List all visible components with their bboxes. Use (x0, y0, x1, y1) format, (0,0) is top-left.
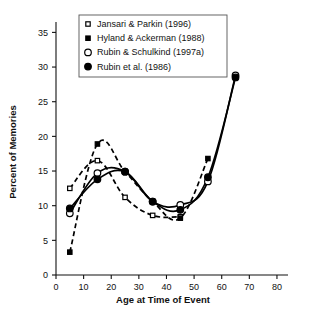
legend-marker-filled-circle (85, 63, 92, 70)
x-tick-label: 30 (134, 282, 144, 292)
data-point (68, 186, 72, 190)
x-tick-label: 10 (79, 282, 89, 292)
data-point (178, 216, 182, 220)
data-point (123, 195, 127, 199)
y-tick-label: 0 (43, 270, 48, 280)
series-line (70, 140, 208, 252)
x-tick-label: 40 (161, 282, 171, 292)
chart-legend: Jansari & Parkin (1996)Hyland & Ackerman… (79, 15, 227, 77)
x-tick-label: 60 (217, 282, 227, 292)
series-3-markers (67, 74, 239, 213)
y-axis-ticks: 05101520253035 (38, 28, 56, 281)
legend-label: Hyland & Ackerman (1988) (97, 33, 205, 43)
x-tick-label: 80 (272, 282, 282, 292)
y-tick-label: 5 (43, 236, 48, 246)
y-tick-label: 20 (38, 132, 48, 142)
y-tick-label: 30 (38, 62, 48, 72)
series-1-markers (68, 142, 210, 255)
legend-marker-filled-square (86, 36, 90, 40)
data-point (205, 174, 212, 181)
data-point (150, 213, 154, 217)
y-tick-label: 15 (38, 166, 48, 176)
legend-label: Rubin & Schulkind (1997a) (97, 47, 204, 57)
data-point (94, 176, 101, 183)
x-axis-ticks: 01020304050607080 (53, 275, 281, 292)
data-point (122, 168, 129, 175)
legend-label: Rubin et al. (1986) (97, 62, 171, 72)
data-point (95, 142, 99, 146)
y-tick-label: 35 (38, 28, 48, 38)
data-point (67, 205, 74, 212)
data-point (95, 158, 99, 162)
y-tick-label: 25 (38, 97, 48, 107)
data-point (177, 207, 184, 214)
legend-marker-open-square (86, 22, 90, 26)
y-tick-label: 10 (38, 201, 48, 211)
series-1 (70, 140, 208, 252)
series-2-markers (67, 72, 239, 217)
data-point (68, 250, 72, 254)
data-point (206, 156, 210, 160)
memory-distribution-chart: 05101520253035 01020304050607080 Percent… (0, 0, 310, 319)
data-point (94, 170, 101, 177)
data-point (232, 74, 239, 81)
x-tick-label: 50 (189, 282, 199, 292)
chart-figure: 05101520253035 01020304050607080 Percent… (0, 0, 310, 319)
x-tick-label: 0 (53, 282, 58, 292)
data-point (149, 198, 156, 205)
x-tick-label: 70 (244, 282, 254, 292)
data-series-group (67, 72, 239, 254)
legend-marker-open-circle (85, 49, 92, 56)
x-tick-label: 20 (106, 282, 116, 292)
y-axis-title: Percent of Memories (7, 105, 18, 198)
legend-label: Jansari & Parkin (1996) (97, 19, 191, 29)
x-axis-title: Age at Time of Event (116, 294, 211, 305)
